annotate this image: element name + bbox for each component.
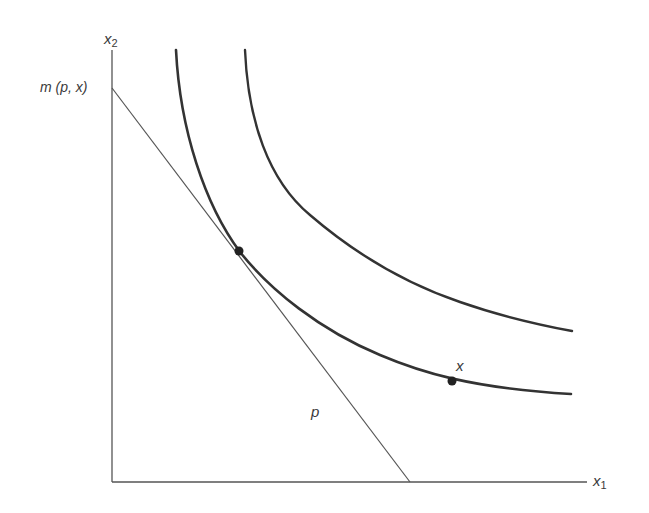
y-axis-label-sub: 2	[112, 37, 118, 49]
intercept-label: m (p, x)	[40, 79, 87, 95]
bundle-point-x	[448, 377, 457, 386]
diagram-svg	[0, 0, 649, 513]
x-axis-label: x1	[593, 472, 607, 491]
budget-line	[112, 88, 410, 482]
y-axis-label-main: x	[104, 30, 112, 47]
indifference-curve-inner	[176, 50, 571, 394]
indifference-curve-outer	[245, 50, 572, 331]
budget-line-label: p	[311, 403, 319, 420]
diagram-canvas: x2 x1 m (p, x) p x	[0, 0, 649, 513]
x-axis-label-main: x	[593, 472, 601, 489]
tangency-point	[235, 247, 244, 256]
point-x-label: x	[456, 357, 464, 374]
y-axis-label: x2	[104, 30, 118, 49]
x-axis-label-sub: 1	[601, 479, 607, 491]
